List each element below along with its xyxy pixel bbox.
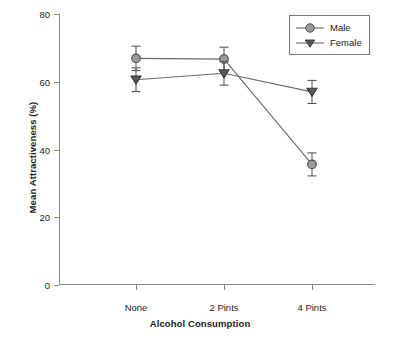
female-marker-icon xyxy=(295,36,325,50)
y-tick-label: 80 xyxy=(39,9,50,20)
x-tick-label: 2 Pints xyxy=(209,302,238,313)
data-point-female-0 xyxy=(131,76,141,84)
data-point-female-2 xyxy=(307,88,317,96)
x-tick xyxy=(312,285,313,290)
data-point-male-2 xyxy=(308,160,317,169)
legend-label-male: Male xyxy=(330,22,351,33)
legend-item-male: Male xyxy=(295,20,362,35)
x-tick xyxy=(136,285,137,290)
y-tick-label: 40 xyxy=(39,144,50,155)
x-tick-label: 4 Pints xyxy=(297,302,326,313)
attractiveness-line-chart: Mean Attractiveness (%) Alcohol Consumpt… xyxy=(0,0,400,338)
y-tick-label: 0 xyxy=(45,280,50,291)
legend-box: Male Female xyxy=(289,15,370,55)
series-female xyxy=(131,61,317,103)
y-axis-title: Mean Attractiveness (%) xyxy=(27,58,38,258)
y-tick-label: 20 xyxy=(39,212,50,223)
y-tick xyxy=(54,285,59,286)
legend-label-female: Female xyxy=(330,37,362,48)
legend-item-female: Female xyxy=(295,35,362,50)
data-point-male-0 xyxy=(132,54,141,63)
x-axis-title: Alcohol Consumption xyxy=(0,318,400,329)
y-tick-label: 60 xyxy=(39,76,50,87)
x-tick-label: None xyxy=(125,302,148,313)
x-tick xyxy=(224,285,225,290)
male-marker-icon xyxy=(295,21,325,35)
